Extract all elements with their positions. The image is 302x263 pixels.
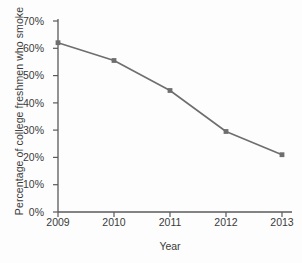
data-markers: [56, 40, 285, 157]
y-axis: [53, 19, 58, 212]
x-axis: [58, 212, 292, 217]
data-point-2012: [224, 129, 229, 134]
data-point-2011: [168, 88, 173, 93]
data-point-2013: [280, 152, 285, 157]
data-line-smoking-percentage: [58, 43, 282, 155]
line-chart: Percentage of college freshmen who smoke…: [0, 0, 302, 263]
data-point-2010: [112, 58, 117, 63]
data-point-2009: [56, 40, 61, 45]
plot-area: [0, 0, 302, 263]
